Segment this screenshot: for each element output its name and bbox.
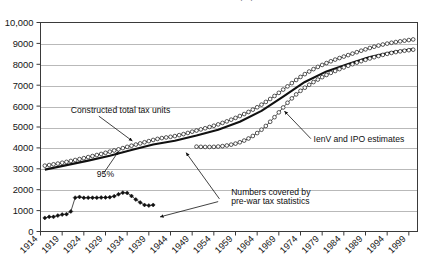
y-axis-tick-label: 0 — [28, 226, 33, 237]
x-axis-tick-label: 1929 — [83, 234, 105, 256]
x-axis-tick-label: 1999 — [386, 234, 408, 256]
x-axis-tick-label: 1944 — [148, 234, 170, 256]
cut-off-title-fragment: Table 2. Tax units and tax population — [0, 0, 432, 9]
gridline — [41, 86, 417, 87]
y-axis-tick-label: 9000 — [13, 38, 34, 49]
gridline — [41, 148, 417, 149]
x-axis-tick-label: 1949 — [170, 234, 192, 256]
x-axis-tick-label: 1954 — [191, 234, 213, 256]
gridline — [41, 65, 417, 66]
x-axis-tick-label: 1994 — [365, 234, 387, 256]
x-axis-tick-label: 1919 — [40, 234, 62, 256]
x-axis-tick-label: 1984 — [321, 234, 343, 256]
y-axis-tick-label: 8000 — [13, 59, 34, 70]
x-axis-tick-label: 1924 — [61, 234, 83, 256]
gridline — [41, 190, 417, 191]
cut-off-title-text: Table 2. Tax units and tax population — [137, 0, 282, 1]
y-axis-tick-label: 4000 — [13, 142, 34, 153]
y-axis-tick-label: 1000 — [13, 205, 34, 216]
plot-area — [40, 22, 418, 232]
x-axis-tick-label: 1974 — [278, 234, 300, 256]
gridline — [41, 23, 417, 24]
gridline — [41, 107, 417, 108]
x-axis-tick-label: 1914 — [18, 234, 40, 256]
gridline — [41, 211, 417, 212]
x-axis-tick-label: 1959 — [213, 234, 235, 256]
x-axis-tick-label: 1964 — [235, 234, 257, 256]
y-axis-tick-label: 6000 — [13, 101, 34, 112]
x-axis-tick-label: 1969 — [256, 234, 278, 256]
x-axis-tick-label: 1979 — [300, 234, 322, 256]
chart-page: Table 2. Tax units and tax population 01… — [0, 0, 432, 269]
y-axis-tick-label: 3000 — [13, 163, 34, 174]
y-axis-tick-label: 7000 — [13, 80, 34, 91]
y-axis-tick-label: 2000 — [13, 184, 34, 195]
x-axis-tick-label: 1939 — [126, 234, 148, 256]
gridline — [41, 169, 417, 170]
y-axis-tick-label: 5000 — [13, 121, 34, 132]
x-axis-tick-label: 1934 — [105, 234, 127, 256]
gridline — [41, 128, 417, 129]
x-axis-tick-label: 1989 — [343, 234, 365, 256]
gridline — [41, 44, 417, 45]
y-axis-tick-label: 10,000 — [5, 17, 34, 28]
